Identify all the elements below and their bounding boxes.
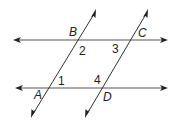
arrow-down-icon [85,109,90,118]
geometry-diagram: B C A D 2 3 1 4 [0,0,176,125]
point-label-c: C [138,26,147,40]
arrow-up-icon [91,9,96,18]
angle-label-1: 1 [58,74,65,88]
point-label-a: A [33,88,42,102]
angle-label-3: 3 [112,42,119,56]
angle-label-2: 2 [79,44,86,58]
point-label-b: B [69,25,77,39]
point-label-d: D [103,90,112,104]
arrow-up-icon [143,9,148,18]
angle-label-4: 4 [94,73,101,87]
arrow-down-icon [31,109,36,118]
